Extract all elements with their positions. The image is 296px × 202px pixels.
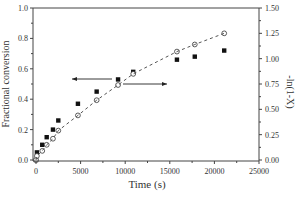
square-marker — [175, 57, 179, 61]
y-tick-label: 1.0 — [18, 4, 28, 13]
square-marker — [94, 89, 98, 93]
square-marker — [45, 135, 49, 139]
y-tick-label: 0.4 — [18, 95, 28, 104]
x-tick-label: 20000 — [204, 167, 224, 176]
y-tick-label: 0.8 — [18, 34, 28, 43]
y-axis-label: Fractional conversion — [0, 41, 11, 128]
x-tick-label: 5000 — [73, 167, 89, 176]
y-tick-label: 0.2 — [18, 126, 28, 135]
y2-tick-label: 0.50 — [265, 105, 279, 114]
y2-tick-label: 0.00 — [265, 156, 279, 165]
square-marker — [56, 118, 60, 122]
left-arrow-head — [72, 77, 77, 81]
y2-axis-label: -ln(1-X) — [284, 75, 296, 108]
square-marker — [76, 102, 80, 106]
x-tick-label: 0 — [34, 167, 38, 176]
y-tick-label: 0.6 — [18, 65, 28, 74]
y2-tick-label: 0.75 — [265, 80, 279, 89]
square-marker — [40, 143, 44, 147]
square-marker — [116, 77, 120, 81]
square-marker — [51, 127, 55, 131]
y2-tick-label: 1.50 — [265, 4, 279, 13]
x-tick-label: 25000 — [249, 167, 269, 176]
square-marker — [193, 54, 197, 58]
x-tick-label: 15000 — [160, 167, 180, 176]
y-tick-label: 0.0 — [18, 156, 28, 165]
y2-tick-label: 0.25 — [265, 131, 279, 140]
chart: 05000100001500020000250000.00.20.40.60.8… — [0, 0, 296, 202]
fit-line — [36, 33, 224, 160]
right-arrow-head — [162, 82, 167, 86]
x-tick-label: 10000 — [115, 167, 135, 176]
plot-area — [34, 31, 227, 162]
y2-tick-label: 1.00 — [265, 55, 279, 64]
square-marker — [222, 48, 226, 52]
circle-marker — [131, 71, 136, 76]
y2-tick-label: 1.25 — [265, 29, 279, 38]
x-axis-label: Time (s) — [128, 178, 166, 191]
axes: 05000100001500020000250000.00.20.40.60.8… — [18, 4, 279, 176]
circle-marker — [222, 31, 227, 36]
